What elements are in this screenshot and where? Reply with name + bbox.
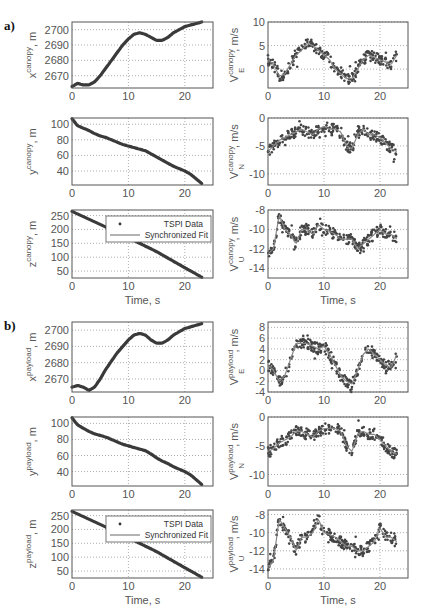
svg-text:-10: -10 xyxy=(249,168,265,180)
svg-text:20: 20 xyxy=(179,187,191,199)
svg-text:150: 150 xyxy=(51,237,69,249)
svg-text:100: 100 xyxy=(51,251,69,263)
svg-text:200: 200 xyxy=(51,223,69,235)
x-axis-label: Time, s xyxy=(320,594,356,606)
svg-text:-5: -5 xyxy=(255,440,265,452)
svg-text:2670: 2670 xyxy=(45,70,69,82)
svg-text:2700: 2700 xyxy=(45,324,69,336)
y-axis-label: VpayloadE, m/s xyxy=(226,328,246,385)
svg-text:20: 20 xyxy=(374,187,386,199)
svg-text:10: 10 xyxy=(318,488,330,500)
svg-text:2690: 2690 xyxy=(45,39,69,51)
svg-text:20: 20 xyxy=(179,580,191,592)
svg-text:-2: -2 xyxy=(255,375,265,387)
svg-text:0: 0 xyxy=(265,488,271,500)
svg-text:10: 10 xyxy=(318,187,330,199)
subplot-1: 010202670268026902700xcanopy, m xyxy=(24,22,213,102)
y-axis-label: VpayloadN, m/s xyxy=(226,423,246,480)
svg-text:-8: -8 xyxy=(255,509,265,521)
legend: TSPI DataSynchronized Fit xyxy=(106,216,211,242)
svg-text:0: 0 xyxy=(259,112,265,124)
svg-text:100: 100 xyxy=(51,551,69,563)
svg-text:40: 40 xyxy=(57,466,69,478)
tspi-data-trace xyxy=(72,418,202,485)
svg-text:0: 0 xyxy=(265,187,271,199)
svg-text:0: 0 xyxy=(265,280,271,292)
svg-text:0: 0 xyxy=(265,394,271,406)
tspi-data-trace xyxy=(72,119,202,184)
svg-text:10: 10 xyxy=(122,580,134,592)
svg-text:20: 20 xyxy=(179,90,191,102)
svg-text:100: 100 xyxy=(51,417,69,429)
svg-text:250: 250 xyxy=(51,510,69,522)
svg-text:50: 50 xyxy=(57,565,69,577)
svg-text:0: 0 xyxy=(265,90,271,102)
svg-text:0: 0 xyxy=(69,90,75,102)
svg-text:10: 10 xyxy=(122,488,134,500)
svg-text:-10: -10 xyxy=(249,469,265,481)
svg-text:20: 20 xyxy=(374,280,386,292)
svg-text:-12: -12 xyxy=(249,243,265,255)
svg-text:-8: -8 xyxy=(255,204,265,216)
svg-text:0: 0 xyxy=(69,280,75,292)
svg-text:-14: -14 xyxy=(249,262,265,274)
svg-text:150: 150 xyxy=(51,537,69,549)
legend: TSPI DataSynchronized Fit xyxy=(106,516,211,542)
svg-text:0: 0 xyxy=(265,580,271,592)
svg-text:80: 80 xyxy=(57,433,69,445)
panel-label-b: b) xyxy=(4,318,16,333)
svg-text:0: 0 xyxy=(69,488,75,500)
svg-text:0: 0 xyxy=(69,580,75,592)
svg-text:10: 10 xyxy=(253,16,265,28)
svg-text:0: 0 xyxy=(259,364,265,376)
svg-text:10: 10 xyxy=(318,280,330,292)
svg-text:0: 0 xyxy=(69,187,75,199)
svg-text:20: 20 xyxy=(179,280,191,292)
svg-text:50: 50 xyxy=(57,265,69,277)
svg-text:10: 10 xyxy=(122,187,134,199)
svg-text:20: 20 xyxy=(374,488,386,500)
svg-text:TSPI Data: TSPI Data xyxy=(164,519,203,529)
svg-text:2670: 2670 xyxy=(45,373,69,385)
svg-text:40: 40 xyxy=(57,165,69,177)
svg-text:0: 0 xyxy=(69,394,75,406)
svg-text:20: 20 xyxy=(179,488,191,500)
svg-text:10: 10 xyxy=(122,280,134,292)
y-axis-label: zcanopy, m xyxy=(24,221,38,268)
svg-text:5: 5 xyxy=(259,40,265,52)
svg-text:2700: 2700 xyxy=(45,24,69,36)
subplot-8: 01020-4-202468VpayloadE, m/s xyxy=(226,321,408,406)
svg-text:10: 10 xyxy=(122,90,134,102)
y-axis-label: VpayloadU, m/s xyxy=(226,515,246,572)
x-axis-label: Time, s xyxy=(320,294,356,306)
subplot-9: 01020406080100ypayload, m xyxy=(24,417,213,500)
svg-text:2690: 2690 xyxy=(45,340,69,352)
subplot-6: 01020-14-12-10-8VcanopyU, m/sTime, s xyxy=(226,204,408,306)
svg-text:Synchronized Fit: Synchronized Fit xyxy=(145,530,209,540)
svg-text:TSPI Data: TSPI Data xyxy=(164,219,203,229)
svg-text:-10: -10 xyxy=(249,223,265,235)
y-axis-label: VcanopyN, m/s xyxy=(226,124,246,179)
y-axis-label: xcanopy, m xyxy=(24,32,38,79)
panel-label-a: a) xyxy=(4,18,15,33)
subplot-12: 01020-14-12-10-8VpayloadU, m/sTime, s xyxy=(226,509,408,606)
svg-text:10: 10 xyxy=(318,394,330,406)
svg-text:20: 20 xyxy=(374,580,386,592)
svg-text:-10: -10 xyxy=(249,527,265,539)
y-axis-label: VcanopyU, m/s xyxy=(226,216,246,271)
y-axis-label: ypayload, m xyxy=(24,427,38,476)
x-axis-label: Time, s xyxy=(125,594,161,606)
svg-text:6: 6 xyxy=(259,332,265,344)
synchronized-fit-line xyxy=(268,520,397,569)
svg-text:10: 10 xyxy=(318,90,330,102)
svg-text:Synchronized Fit: Synchronized Fit xyxy=(145,230,209,240)
svg-text:60: 60 xyxy=(57,450,69,462)
subplot-2: 010200510VcanopyE, m/s xyxy=(226,16,408,102)
svg-text:4: 4 xyxy=(259,343,265,355)
svg-text:-5: -5 xyxy=(255,140,265,152)
svg-text:10: 10 xyxy=(122,394,134,406)
tspi-data-trace xyxy=(72,22,202,87)
svg-text:250: 250 xyxy=(51,210,69,222)
svg-text:0: 0 xyxy=(259,63,265,75)
subplot-3: 01020406080100ycanopy, m xyxy=(24,118,213,199)
